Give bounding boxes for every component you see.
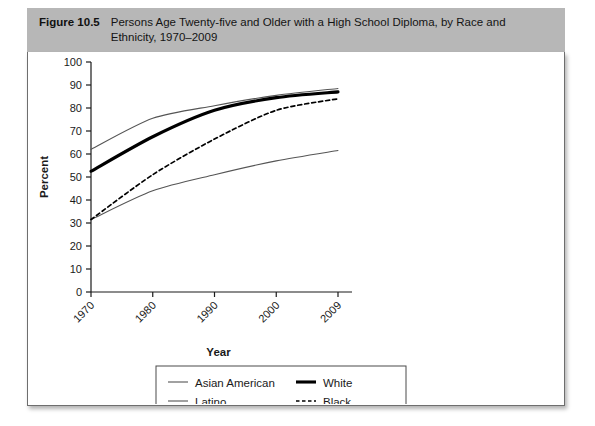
y-axis-tick-label: 20 [70,240,82,252]
x-axis-tick-label: 1970 [71,299,97,325]
x-axis-tick-label: 2009 [318,299,344,325]
legend-box [156,366,406,404]
series-line-asian-american [91,88,338,149]
y-axis-title: Percent [38,156,50,198]
figure-container: Figure 10.5 Persons Age Twenty-five and … [27,8,565,406]
y-axis-tick-label: 60 [70,148,82,160]
series-line-white [91,92,338,171]
x-axis-title: Year [206,346,231,358]
y-axis-tick-label: 90 [70,79,82,91]
y-axis-tick-label: 30 [70,217,82,229]
figure-caption-text: Persons Age Twenty-five and Older with a… [111,15,531,44]
y-axis-tick-label: 80 [70,102,82,114]
y-axis-tick-label: 0 [76,286,82,298]
series-line-latino [91,151,338,220]
legend-label-latino: Latino [195,396,226,405]
x-axis-tick-label: 2000 [256,299,282,325]
y-axis-tick-label: 10 [70,263,82,275]
plot-panel: 0102030405060708090100197019801990200020… [27,52,565,406]
y-axis-tick-label: 40 [70,194,82,206]
x-axis-tick-label: 1990 [194,299,220,325]
figure-number-label: Figure 10.5 [39,15,111,30]
figure-caption-bar: Figure 10.5 Persons Age Twenty-five and … [27,8,565,52]
legend-label-asian-american: Asian American [195,377,275,389]
y-axis-tick-label: 50 [70,171,82,183]
y-axis-tick-label: 70 [70,125,82,137]
y-axis-tick-label: 100 [64,56,82,68]
line-chart: 0102030405060708090100197019801990200020… [28,52,564,404]
x-axis-tick-label: 1980 [132,299,158,325]
legend-label-white: White [323,377,352,389]
legend-label-black: Black [323,396,351,405]
